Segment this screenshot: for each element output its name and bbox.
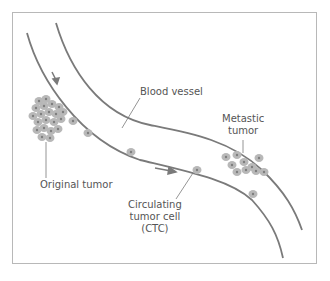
flow-arrow-top-icon bbox=[52, 72, 59, 84]
label-metastatic-line1: Metastic bbox=[222, 113, 264, 125]
label-ctc-line3: (CTC) bbox=[128, 223, 182, 235]
label-metastatic-tumor: Metastic tumor bbox=[222, 113, 264, 137]
leader-ctc bbox=[176, 173, 193, 199]
label-ctc: Circulating tumor cell (CTC) bbox=[128, 199, 182, 235]
label-ctc-line1: Circulating bbox=[128, 199, 182, 211]
leader-blood-vessel bbox=[122, 98, 140, 128]
original-tumor-cluster bbox=[29, 95, 78, 142]
label-blood-vessel: Blood vessel bbox=[140, 86, 203, 98]
metastatic-tumor-cluster bbox=[222, 151, 269, 176]
label-metastatic-line2: tumor bbox=[222, 125, 264, 137]
label-ctc-line2: tumor cell bbox=[128, 211, 182, 223]
label-original-tumor: Original tumor bbox=[40, 179, 113, 191]
metastasis-diagram bbox=[0, 0, 330, 281]
